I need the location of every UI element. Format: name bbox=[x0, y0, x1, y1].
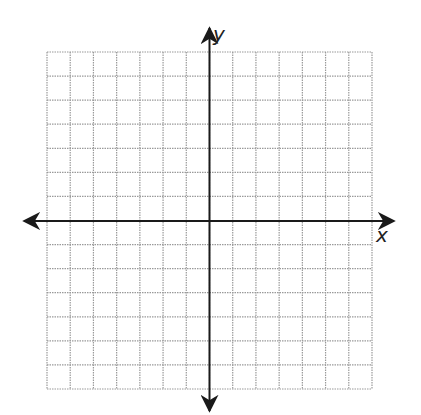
y-axis-label: y bbox=[213, 24, 225, 44]
x-axis-label: x bbox=[376, 225, 388, 245]
axes bbox=[24, 28, 394, 411]
coordinate-grid-svg bbox=[0, 0, 421, 415]
coordinate-plane: x y bbox=[0, 0, 421, 415]
